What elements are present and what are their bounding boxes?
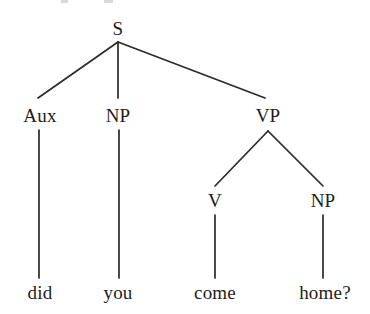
- leaf-come: come: [194, 283, 236, 302]
- leaf-home: home?: [299, 283, 351, 302]
- node-vp: VP: [256, 106, 281, 125]
- node-aux: Aux: [23, 106, 56, 125]
- node-v: V: [208, 191, 222, 210]
- leaf-you: you: [103, 283, 132, 302]
- tree-edges-layer: [0, 0, 370, 314]
- edge-vp-to-v: [215, 131, 268, 186]
- node-s: S: [113, 19, 124, 38]
- syntax-tree-figure: S Aux NP VP V NP did you come home?: [0, 0, 370, 314]
- edge-vp-to-np: [268, 131, 323, 186]
- edge-s-to-aux: [38, 42, 118, 98]
- node-np-subject: NP: [106, 106, 131, 125]
- leaf-did: did: [28, 283, 53, 302]
- edge-s-to-vp: [118, 42, 265, 98]
- node-np-object: NP: [311, 191, 336, 210]
